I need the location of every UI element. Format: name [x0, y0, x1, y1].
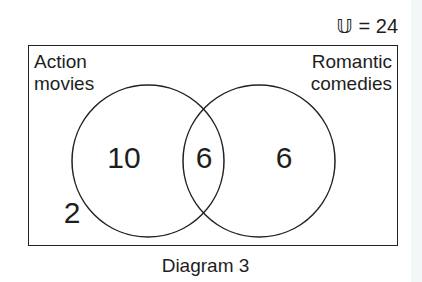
- region-only-romantic: 6: [276, 142, 293, 174]
- region-neither: 2: [64, 197, 81, 229]
- region-values: 10 6 6 2: [0, 0, 422, 282]
- region-intersection: 6: [196, 142, 213, 174]
- diagram-caption: Diagram 3: [0, 254, 411, 278]
- region-only-action: 10: [107, 142, 140, 174]
